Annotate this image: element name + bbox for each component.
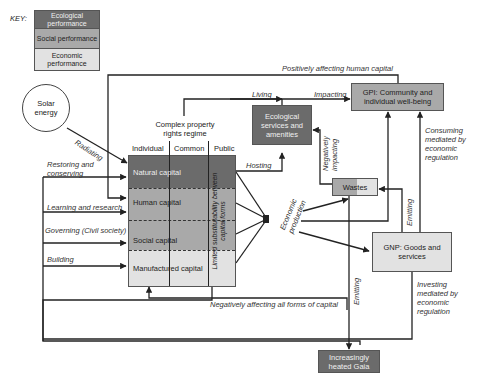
key-legend: Ecological performance Social performanc… <box>34 10 100 71</box>
column-common: Common <box>174 144 204 153</box>
gaia-node: Increasingly heated Gaia <box>318 350 380 373</box>
edge-label-consuming: Consuming mediated by economic regulatio… <box>425 126 477 162</box>
gnp-node: GNP: Goods and services <box>372 232 452 272</box>
edge-label-emitting-gnp: Emitting <box>405 199 414 226</box>
edge-label-governing: Governing (Civil society) <box>45 226 126 235</box>
column-individual: Individual <box>132 144 164 153</box>
column-divider <box>208 141 209 286</box>
edge-label-hosting: Hosting <box>246 161 271 170</box>
social-capital-label: Social capital <box>133 236 177 245</box>
capital-grid: Natural capital Human capital Social cap… <box>128 155 236 287</box>
ecological-services-node: Ecological services and amenities <box>252 105 312 145</box>
edge-label-restoring: Restoring and conserving <box>47 160 127 178</box>
legend-economic: Economic performance <box>34 49 100 71</box>
edge-label-negatively-impacting: Negatively impacting <box>321 123 339 171</box>
legend-social: Social performance <box>34 29 100 49</box>
key-label: KEY: <box>10 14 27 23</box>
manufactured-capital-label: Manufactured capital <box>133 264 203 273</box>
edge-label-emitting-wastes: Emitting <box>352 278 361 305</box>
column-public: Public <box>214 144 234 153</box>
wastes-node: Wastes <box>332 178 378 196</box>
edge-label-building: Building <box>47 255 74 264</box>
edge-label-impacting: Impacting <box>314 90 347 99</box>
property-regime-label: Complex property rights regime <box>150 120 220 138</box>
edge-label-investing: Investing mediated by economic regulatio… <box>417 280 475 316</box>
human-capital-label: Human capital <box>133 198 181 207</box>
substitutability-label-wrap: Limited substitutability between capital… <box>211 162 233 280</box>
edge-label-living: Living <box>252 90 272 99</box>
neg-impacting-wrap: Negatively impacting <box>321 171 347 172</box>
edge-label-positively-affecting: Positively affecting human capital <box>282 64 393 73</box>
solar-energy-node: Solar energy <box>22 84 70 132</box>
substitutability-label: Limited substitutability between capital… <box>211 162 227 280</box>
natural-capital-label: Natural capital <box>133 168 181 177</box>
edge-label-negatively-affecting: Negatively affecting all forms of capita… <box>210 300 338 309</box>
edge-label-learning: Learning and research <box>47 203 122 212</box>
gpi-node: GPI: Community and individual well-being <box>351 83 444 111</box>
legend-ecological: Ecological performance <box>34 10 100 29</box>
